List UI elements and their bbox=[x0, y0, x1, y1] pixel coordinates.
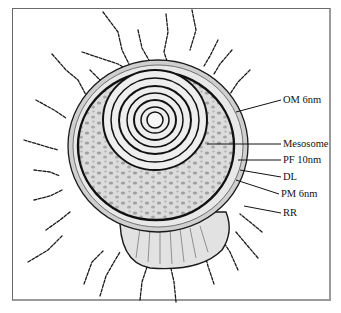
label-dl: DL bbox=[283, 171, 297, 183]
label-rr: RR bbox=[283, 207, 297, 219]
mesosome-rings bbox=[103, 70, 207, 170]
label-pf: PF 10nm bbox=[283, 154, 321, 166]
label-mesosome: Mesosome bbox=[283, 138, 329, 150]
label-om: OM 6nm bbox=[283, 94, 321, 106]
label-pm: PM 6nm bbox=[281, 188, 317, 200]
